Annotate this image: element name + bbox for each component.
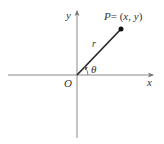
radius-label: r	[92, 38, 96, 49]
angle-arc-icon	[85, 67, 88, 75]
point-equals: = (	[111, 10, 124, 23]
polar-diagram: y x O r θ P= (x, y)	[0, 0, 164, 144]
point-close: )	[139, 10, 143, 23]
origin-label: O	[64, 77, 72, 89]
point-p	[119, 27, 124, 32]
x-axis-label: x	[146, 76, 152, 88]
point-label: P= (x, y)	[103, 10, 143, 23]
angle-label: θ	[91, 63, 97, 75]
y-axis-label: y	[65, 9, 71, 21]
radius-segment	[77, 29, 121, 75]
